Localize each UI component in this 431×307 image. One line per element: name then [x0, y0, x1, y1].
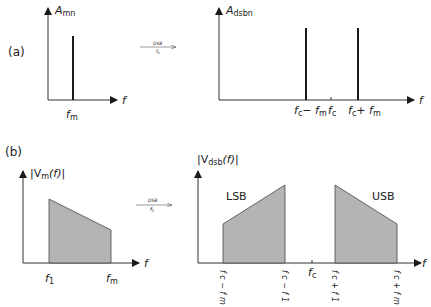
panel-b-dsb-plot: LSB USB |Vdsb(f)| f fc f c − f m f c − f…: [197, 153, 428, 305]
tick-f1: f1: [45, 272, 54, 286]
y-axis-label: Amn: [54, 4, 75, 18]
x-axis-label: f: [422, 257, 428, 270]
tick-fc-minus-fm: f c − f m: [218, 270, 227, 305]
x-axis-label: f: [144, 257, 150, 270]
usb-label: USB: [372, 190, 395, 203]
tick-fm: fm: [106, 272, 118, 286]
tick-fc-minus-fm: fc− fm: [294, 104, 327, 118]
tick-fc-minus-f1: f c − f 1: [280, 270, 289, 302]
tick-fc: fc: [308, 266, 316, 280]
arrow-label-fc: fc: [156, 48, 161, 55]
x-axis-label: f: [122, 94, 128, 107]
tick-fc-plus-fm: f c + f m: [392, 270, 401, 305]
dsb-modulation-arrow-a: DSB fc: [140, 41, 176, 55]
y-axis-label: |Vm(f)|: [30, 167, 65, 181]
y-axis-label: |Vdsb(f)|: [197, 153, 239, 167]
arrow-label-fc: fc: [150, 206, 155, 213]
panel-b-tag: (b): [5, 145, 22, 159]
panel-a-tag: (a): [8, 45, 25, 59]
tick-fm: fm: [66, 108, 78, 122]
y-axis-label: Adsbn: [225, 4, 253, 18]
panel-a-dsb-plot: Adsbn f fc− fm fc fc+ fm: [219, 4, 425, 118]
dsb-modulation-arrow-b: DSB fc: [136, 198, 172, 213]
arrow-label-dsb: DSB: [148, 198, 157, 203]
tick-fc-plus-f1: f c + f 1: [330, 270, 339, 302]
arrow-label-dsb: DSB: [153, 41, 162, 46]
tick-fc: fc: [328, 104, 336, 118]
dsb-spectrum-diagram: (a) Amn f fm DSB fc Adsbn f fc− fm fc fc…: [0, 0, 431, 307]
panel-b-baseband-plot: |Vm(f)| f f1 fm: [23, 167, 150, 286]
panel-a-baseband-plot: Amn f fm: [48, 4, 128, 122]
lsb-label: LSB: [226, 190, 247, 203]
x-axis-label: f: [419, 94, 425, 107]
tick-fc-plus-fm: fc+ fm: [348, 104, 381, 118]
baseband-spectrum-shape: [49, 199, 111, 263]
